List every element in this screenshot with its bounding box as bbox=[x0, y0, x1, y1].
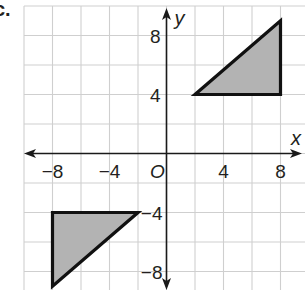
triangle-quadrant-III bbox=[53, 213, 139, 287]
y-tick-label: 4 bbox=[150, 85, 161, 106]
y-axis-label: y bbox=[173, 7, 186, 29]
triangle-quadrant-I bbox=[195, 21, 281, 95]
x-tick-label: 8 bbox=[275, 161, 286, 182]
x-tick-label: −8 bbox=[42, 161, 64, 182]
x-tick-label: 4 bbox=[218, 161, 229, 182]
x-tick-label: −4 bbox=[99, 161, 121, 182]
y-tick-label: −8 bbox=[141, 262, 163, 283]
origin-label: O bbox=[150, 161, 165, 182]
y-tick-label: 8 bbox=[150, 26, 161, 47]
y-tick-label: −4 bbox=[141, 203, 163, 224]
coordinate-plane: c. −8−44884−4−8Oxy bbox=[0, 0, 305, 290]
problem-label: c. bbox=[0, 0, 11, 20]
x-axis-label: x bbox=[290, 127, 302, 149]
